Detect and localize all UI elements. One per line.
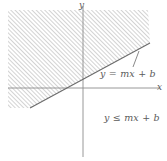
shaded-region-hatch — [8, 10, 150, 108]
boundary-line-equation-label: y = mx + b — [100, 68, 156, 79]
graph-canvas — [0, 0, 167, 161]
x-axis-label: x — [157, 82, 162, 92]
y-axis-label: y — [79, 0, 84, 10]
inequality-graph-figure: y = mx + b y ≤ mx + b y x — [0, 0, 167, 161]
inequality-region-label: y ≤ mx + b — [104, 112, 160, 123]
leader-line — [133, 51, 139, 67]
